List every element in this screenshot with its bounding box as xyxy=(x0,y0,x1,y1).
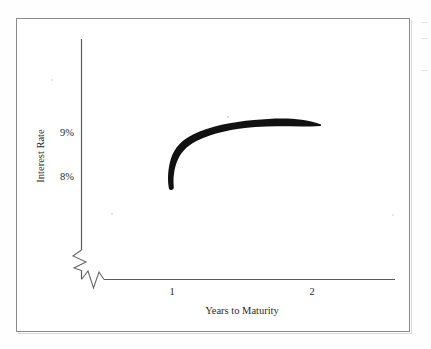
x-tick-label-2: 2 xyxy=(309,286,314,297)
yield-curve-chart: 9% 8% 1 2 Years to Maturity Interest Rat… xyxy=(0,0,431,349)
scan-edge-artifact xyxy=(422,38,428,39)
scan-edge-artifact xyxy=(422,22,428,23)
y-axis-title: Interest Rate xyxy=(35,129,46,183)
scan-edge-artifact xyxy=(422,70,428,71)
scan-speck xyxy=(111,213,113,215)
y-tick-label-9: 9% xyxy=(60,127,74,138)
x-tick-label-1: 1 xyxy=(169,286,174,297)
x-axis-break-icon xyxy=(82,271,105,288)
x-axis-title: Years to Maturity xyxy=(205,305,279,316)
scan-speck xyxy=(392,214,394,216)
scan-speck xyxy=(51,79,53,81)
scan-speck xyxy=(227,116,229,118)
figure-page: 9% 8% 1 2 Years to Maturity Interest Rat… xyxy=(0,0,431,349)
yield-curve-line xyxy=(168,118,321,190)
y-axis-break-icon xyxy=(73,250,86,271)
y-tick-label-8: 8% xyxy=(60,171,74,182)
